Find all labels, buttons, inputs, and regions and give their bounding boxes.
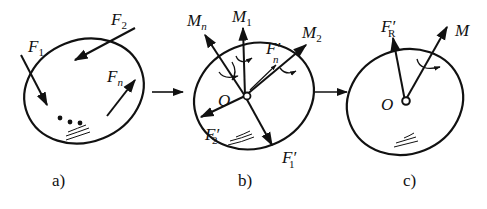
panel-c: F′R M O c) (331, 17, 479, 190)
caption-b: b) (238, 171, 252, 190)
label-mn: Mn (186, 11, 207, 32)
label-f2-prime: F′2 (204, 125, 219, 146)
origin-point (244, 93, 251, 100)
surface-hatch (228, 131, 254, 145)
label-origin: O (218, 91, 230, 110)
label-m2: M2 (301, 23, 322, 44)
label-fn-prime: F′n (265, 39, 280, 65)
rigid-body-outline (178, 25, 330, 167)
label-fn: Fn (106, 67, 123, 88)
caption-c: c) (403, 171, 416, 190)
panel-b: Mn M1 M2 F′n F′2 F′1 O b) (178, 7, 330, 190)
ellipsis-dots (58, 116, 83, 126)
label-f2: F2 (110, 10, 127, 31)
surface-hatch (66, 125, 90, 140)
label-fr-prime: F′R (380, 17, 396, 39)
origin-point (402, 97, 410, 105)
resultant-moment-arrow (405, 27, 447, 101)
caption-a: a) (52, 171, 65, 190)
label-origin: O (381, 95, 393, 114)
diagram-canvas: F1 F2 Fn a) Mn M1 M2 (0, 0, 487, 209)
panel-a: F1 F2 Fn a) (8, 10, 159, 190)
surface-hatch (394, 133, 418, 147)
label-f1-prime: F′1 (281, 148, 296, 170)
label-m1: M1 (231, 7, 252, 28)
force-f2-arrow (75, 28, 135, 60)
label-f1: F1 (27, 37, 44, 58)
force-f1-prime-arrow (245, 96, 272, 145)
label-m: M (454, 21, 470, 40)
couple-rotation-arcs (219, 56, 296, 80)
force-system-reduction-diagram: F1 F2 Fn a) Mn M1 M2 (0, 0, 487, 209)
force-fn-prime-arrow (250, 65, 276, 90)
couple-mn-arrow (205, 35, 245, 96)
resultant-force-arrow (393, 38, 405, 101)
